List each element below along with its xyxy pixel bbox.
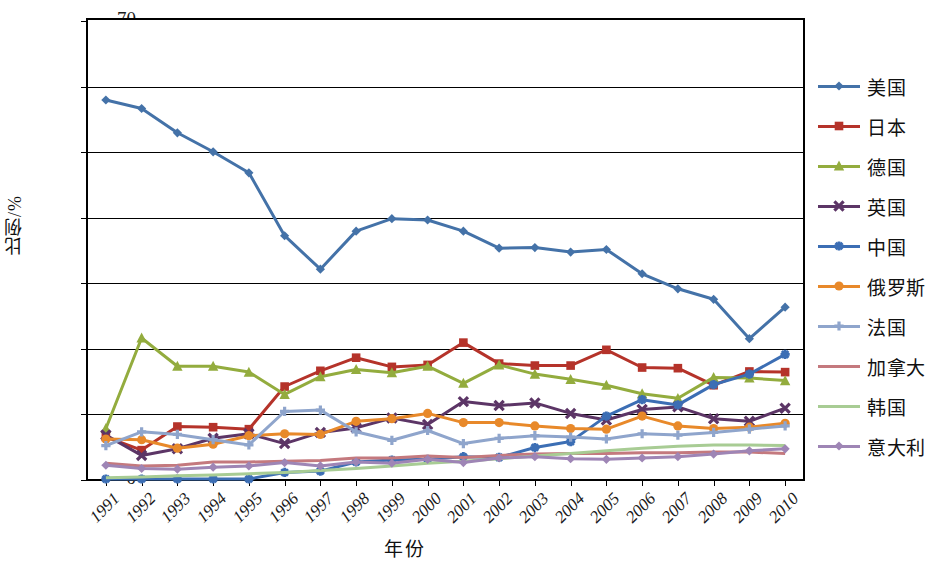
legend-item-意大利[interactable]: 意大利: [818, 426, 950, 466]
data-point: [673, 421, 682, 430]
legend-swatch-line: [818, 125, 860, 128]
legend-marker-star-icon: [829, 236, 849, 256]
data-point: [316, 430, 325, 439]
data-point: [638, 429, 647, 438]
legend-swatch-line: [818, 85, 860, 88]
legend-item-韩国[interactable]: 韩国: [818, 386, 950, 426]
data-point: [530, 431, 539, 440]
data-point: [280, 458, 289, 467]
legend-swatch-line: [818, 205, 860, 208]
legend-label: 德国: [867, 153, 906, 180]
data-point: [745, 446, 754, 455]
legend-label: 加拿大: [867, 353, 926, 380]
data-point: [101, 461, 110, 470]
data-point: [137, 427, 146, 436]
legend-label: 日本: [867, 113, 906, 140]
data-point: [530, 421, 539, 430]
legend-item-美国[interactable]: 美国: [818, 66, 950, 106]
data-point: [101, 95, 110, 104]
legend-item-法国[interactable]: 法国: [818, 306, 950, 346]
data-point: [834, 81, 843, 90]
data-point: [602, 455, 611, 464]
legend-swatch-line: [818, 405, 860, 408]
legend-marker-circle-icon: [829, 276, 849, 296]
data-point: [423, 215, 432, 224]
legend-swatch-line: [818, 365, 860, 368]
chart-root: 比例/% 年份 010203040506070 1991199219931994…: [0, 0, 950, 565]
legend-label: 意大利: [867, 433, 926, 460]
data-point: [781, 350, 790, 359]
legend-item-中国[interactable]: 中国: [818, 226, 950, 266]
legend-marker-x-icon: [829, 196, 849, 216]
legend-marker-triangle-icon: [829, 156, 849, 176]
data-point: [530, 243, 539, 252]
data-point: [459, 227, 468, 236]
legend-item-英国[interactable]: 英国: [818, 186, 950, 226]
data-point: [834, 201, 843, 210]
data-point: [173, 444, 182, 453]
data-point: [834, 321, 843, 330]
data-point: [834, 281, 843, 290]
data-point: [173, 422, 182, 431]
series-line: [106, 413, 785, 448]
data-point: [602, 434, 611, 443]
legend-item-俄罗斯[interactable]: 俄罗斯: [818, 266, 950, 306]
series-美国: [101, 95, 789, 343]
data-point: [459, 418, 468, 427]
data-point: [352, 353, 361, 362]
data-point: [495, 418, 504, 427]
data-point: [602, 411, 611, 420]
series-line: [106, 100, 785, 339]
data-point: [136, 333, 146, 343]
legend-item-日本[interactable]: 日本: [818, 106, 950, 146]
legend-swatch-line: [818, 445, 860, 448]
legend-label: 韩国: [867, 393, 906, 420]
data-point: [638, 395, 647, 404]
legend-marker-square-icon: [829, 116, 849, 136]
data-point: [566, 361, 575, 370]
legend-label: 美国: [867, 73, 906, 100]
data-point: [387, 214, 396, 223]
data-point: [638, 453, 647, 462]
data-point: [602, 346, 611, 355]
data-point: [781, 368, 790, 377]
data-point: [709, 380, 718, 389]
data-point: [101, 441, 110, 450]
data-point: [638, 411, 647, 420]
data-point: [387, 436, 396, 445]
data-point: [566, 454, 575, 463]
data-point: [209, 423, 218, 432]
legend-marker-diamond-icon: [829, 76, 849, 96]
data-point: [674, 364, 683, 373]
data-point: [745, 369, 754, 378]
data-point: [566, 248, 575, 257]
legend-swatch-line: [818, 165, 860, 168]
legend-label: 英国: [867, 193, 906, 220]
data-point: [244, 474, 253, 483]
data-point: [530, 443, 539, 452]
data-point: [173, 430, 182, 439]
legend-swatch-line: [818, 325, 860, 328]
legend-marker-diamond-icon: [829, 436, 849, 456]
legend-item-加拿大[interactable]: 加拿大: [818, 346, 950, 386]
data-point: [673, 430, 682, 439]
chart-canvas: [0, 0, 950, 565]
data-point: [531, 361, 540, 370]
data-point: [566, 424, 575, 433]
data-point: [834, 241, 843, 250]
data-point: [459, 439, 468, 448]
legend-swatch-line: [818, 285, 860, 288]
legend-marker-plus-icon: [829, 316, 849, 336]
legend-item-德国[interactable]: 德国: [818, 146, 950, 186]
data-point: [244, 431, 253, 440]
data-point: [495, 434, 504, 443]
data-point: [602, 425, 611, 434]
data-point: [137, 435, 146, 444]
legend-label: 法国: [867, 313, 906, 340]
data-point: [673, 400, 682, 409]
data-point: [835, 122, 844, 131]
data-point: [834, 441, 843, 450]
legend-label: 中国: [867, 233, 906, 260]
data-point: [495, 244, 504, 253]
data-point: [423, 409, 432, 418]
